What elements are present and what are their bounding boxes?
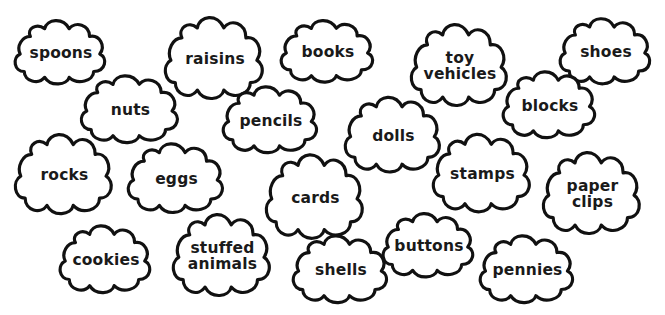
cloud-shells: shells — [290, 232, 392, 308]
cloud-label: cards — [263, 150, 368, 245]
cloud-label: cookies — [57, 222, 155, 298]
cloud-label: eggs — [125, 140, 228, 218]
cloud-books: books — [278, 17, 378, 87]
cloud-label: stuffed animals — [170, 210, 275, 302]
cloud-cookies: cookies — [57, 222, 155, 298]
cloud-stamps: stamps — [430, 130, 535, 218]
cloud-label: books — [278, 17, 378, 87]
cloud-label: buttons — [380, 210, 478, 282]
cloud-stuffed-animals: stuffed animals — [170, 210, 275, 302]
cloud-rocks: rocks — [12, 130, 117, 220]
cloud-pennies: pennies — [477, 232, 578, 308]
cropped-heading-text — [0, 0, 250, 3]
cloud-buttons: buttons — [380, 210, 478, 282]
cloud-label: pennies — [477, 232, 578, 308]
cloud-paper-clips: paper clips — [540, 148, 645, 240]
cloud-label: shells — [290, 232, 392, 308]
cloud-label: pencils — [220, 83, 322, 158]
cloud-pencils: pencils — [220, 83, 322, 158]
cloud-label: stamps — [430, 130, 535, 218]
cloud-eggs: eggs — [125, 140, 228, 218]
cloud-label: paper clips — [540, 148, 645, 240]
cloud-cards: cards — [263, 150, 368, 245]
cloud-label: rocks — [12, 130, 117, 220]
